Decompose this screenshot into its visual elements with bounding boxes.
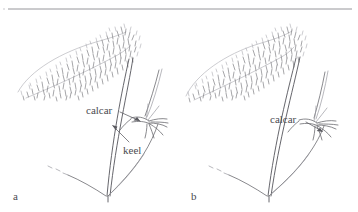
stem-b (268, 57, 300, 196)
botanical-figure: calcar keel calcar a b (0, 0, 358, 212)
annotation-label-keel-a: keel (123, 145, 141, 156)
basal-bract-a (48, 166, 108, 202)
panel-b-plant (186, 24, 338, 202)
horizontal-rule (3, 8, 352, 9)
panel-label-a: a (13, 191, 18, 202)
inflorescence-spike-b (186, 24, 307, 102)
stem-a (107, 58, 133, 196)
annotation-label-calcar-a: calcar (86, 105, 112, 116)
panel-label-b: b (191, 191, 197, 202)
figure-drawing (0, 0, 358, 212)
annotation-label-calcar-b: calcar (270, 114, 296, 125)
basal-bract-b (209, 166, 269, 202)
keel-ridge-a (108, 124, 158, 196)
calcar-spur-b (314, 71, 328, 119)
floret-cluster-a (120, 104, 168, 138)
